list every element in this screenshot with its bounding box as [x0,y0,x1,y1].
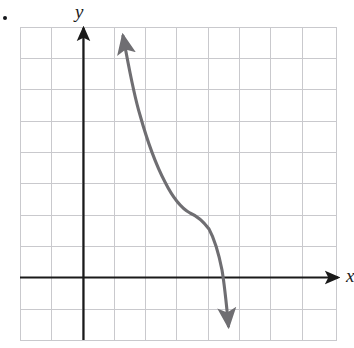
function-curve [123,36,229,326]
grid-horizontal-lines [20,28,337,341]
x-axis-label: x [346,266,354,285]
coordinate-plane [0,0,354,348]
y-axis-label: y [75,2,83,21]
graph-figure: y x [0,0,354,348]
